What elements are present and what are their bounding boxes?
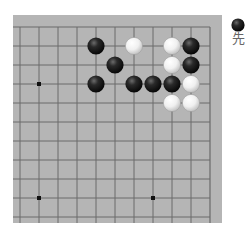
go-board[interactable] (13, 15, 222, 223)
black-stone (87, 75, 104, 92)
star-point (37, 82, 41, 86)
stones (87, 37, 199, 111)
black-stone (144, 75, 161, 92)
white-stone (125, 37, 142, 54)
black-stone (106, 56, 123, 73)
black-stone-icon (231, 18, 245, 32)
black-stone (125, 75, 142, 92)
to-move-label: 先 (229, 32, 247, 46)
star-point (151, 196, 155, 200)
white-stone (163, 37, 180, 54)
black-stone (87, 37, 104, 54)
board-grid[interactable] (13, 15, 222, 223)
black-stone (182, 37, 199, 54)
star-point (37, 196, 41, 200)
grid-lines (13, 27, 210, 223)
black-stone (163, 75, 180, 92)
white-stone (182, 94, 199, 111)
white-stone (163, 56, 180, 73)
white-stone (163, 94, 180, 111)
to-move-indicator: 先 (229, 18, 247, 46)
white-stone (182, 75, 199, 92)
black-stone (182, 56, 199, 73)
